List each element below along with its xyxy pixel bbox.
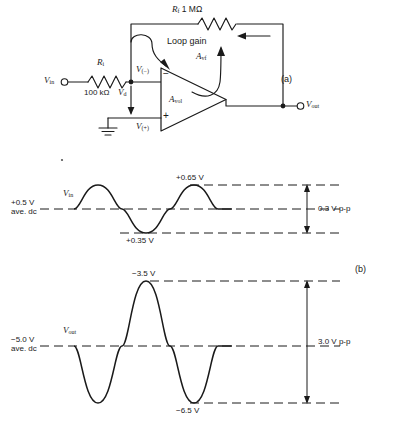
- feedback-resistor-label: Rf 1 MΩ: [172, 4, 202, 15]
- output-terminal-circle: [297, 103, 304, 110]
- inverting-input-sign: −: [163, 68, 169, 80]
- input-terminal-circle: [61, 79, 68, 86]
- panel-b-tag: (b): [355, 264, 366, 274]
- figure-root: Rf 1 MΩ Ri 100 kΩ Vin Vout V(−) V(+) Vd …: [0, 0, 394, 425]
- differential-voltage-label: Vd: [118, 87, 127, 98]
- inverting-node-label: V(−): [136, 64, 149, 75]
- output-node-dot: [281, 104, 286, 109]
- output-wire: [226, 100, 297, 107]
- closed-loop-gain-label: Avf: [196, 51, 207, 62]
- loop-gain-arrow-left: [131, 35, 166, 66]
- noninverting-node-label: V(+): [136, 121, 149, 132]
- vout-negative-peak-label: −6.5 V: [176, 406, 199, 415]
- summing-junction-dot: [129, 80, 134, 85]
- output-terminal-label: Vout: [306, 99, 319, 110]
- vout-dc-average-label: −5.0 V ave. dc: [11, 335, 37, 353]
- input-waveform-group: [40, 184, 340, 234]
- vin-dc-average-label: +0.5 V ave. dc: [11, 198, 37, 216]
- vout-sine-curve: [74, 281, 232, 403]
- loop-gain-text: Loop gain: [167, 36, 207, 46]
- open-loop-gain-label: Avol: [169, 94, 182, 105]
- vout-positive-peak-label: −3.5 V: [132, 269, 155, 278]
- vin-negative-peak-label: +0.35 V: [126, 236, 154, 245]
- vin-signal-label: Vin: [63, 188, 73, 199]
- loop-gain-arrow-right-head: [217, 46, 225, 56]
- vout-signal-label: Vout: [63, 325, 76, 336]
- input-resistor-value: 100 kΩ: [84, 88, 110, 97]
- loop-gain-arrow-top-head: [237, 33, 246, 40]
- output-waveform-group: [40, 280, 340, 404]
- panel-a-tag: (a): [281, 74, 292, 84]
- vin-positive-peak-label: +0.65 V: [176, 173, 204, 182]
- vin-peak-to-peak-label: 0.3 V p-p: [318, 204, 350, 213]
- scan-speck: [61, 159, 63, 161]
- feedback-resistor-symbol: [198, 18, 236, 30]
- input-terminal-label: Vin: [44, 75, 54, 86]
- vd-arrow-head: [128, 107, 135, 115]
- input-resistor-label: Ri: [97, 57, 104, 68]
- noninverting-input-sign: +: [163, 110, 169, 122]
- vout-peak-to-peak-label: 3.0 V p-p: [318, 337, 350, 346]
